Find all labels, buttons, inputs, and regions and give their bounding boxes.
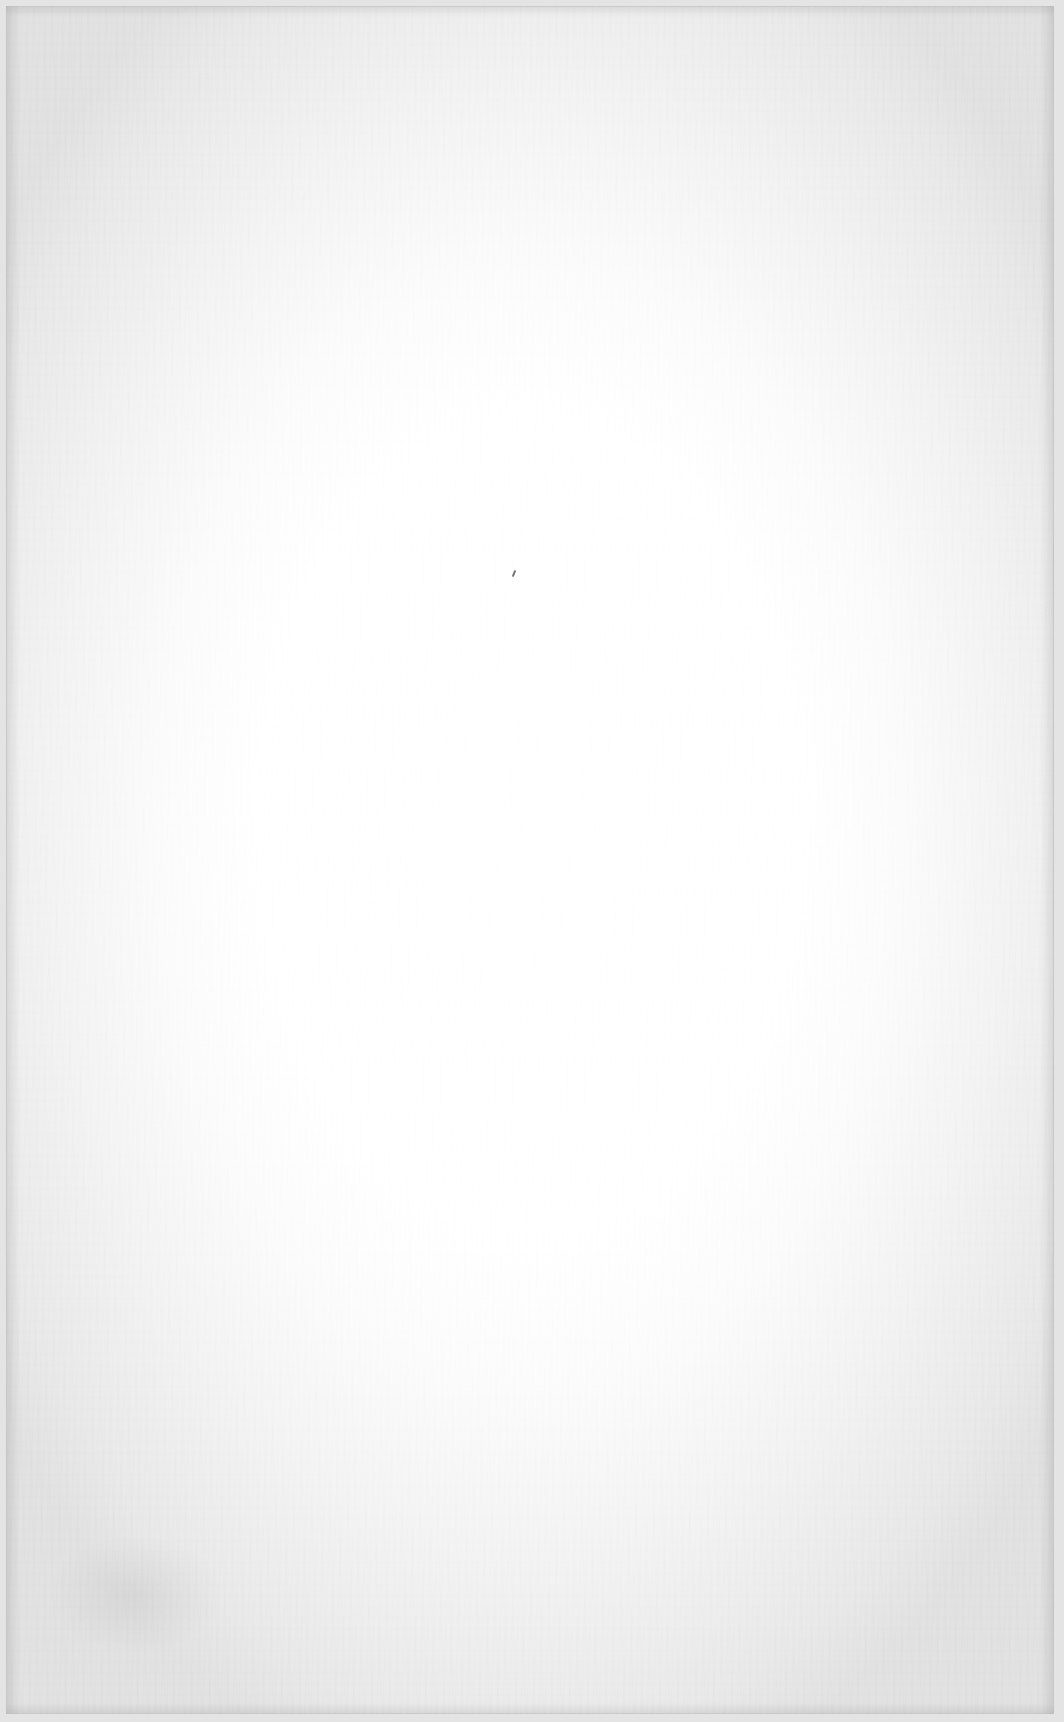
paper-sheet (6, 6, 1054, 1714)
paper-edge-bottom (6, 1704, 1054, 1714)
paper-texture (6, 6, 1054, 1714)
scan-frame (0, 0, 1064, 1722)
paper-edge-top (6, 6, 1054, 16)
paper-edge-left (6, 6, 20, 1714)
paper-edge-right (1040, 6, 1054, 1714)
corner-smudge (46, 1534, 226, 1654)
